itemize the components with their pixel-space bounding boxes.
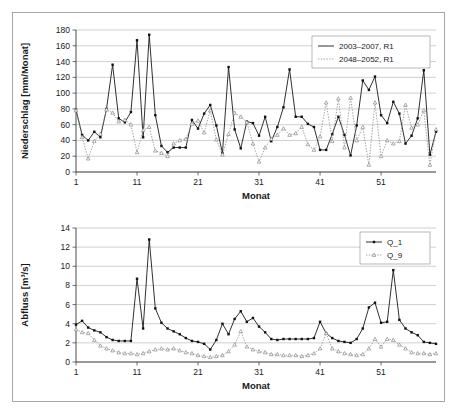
data-point	[130, 111, 132, 113]
data-point	[258, 325, 260, 327]
x-tick-label: 41	[315, 367, 325, 377]
data-point	[172, 347, 176, 350]
precipitation-chart: 02040608010012014016018011121314151Monat…	[12, 14, 446, 210]
data-point	[318, 347, 322, 350]
data-point	[343, 341, 345, 343]
legend-label: 2048–2052, R1	[339, 55, 394, 64]
data-point	[374, 301, 376, 303]
data-point	[349, 154, 351, 156]
runoff-chart-panel: 0246810121411121314151MonatAbfluss [m³/s…	[12, 210, 446, 402]
data-point	[385, 337, 389, 340]
y-tick-label: 14	[61, 223, 71, 233]
data-point	[428, 163, 432, 166]
data-point	[239, 329, 243, 332]
data-point	[325, 149, 327, 151]
data-point	[93, 139, 97, 142]
data-point	[190, 351, 194, 354]
data-point	[154, 307, 156, 309]
legend[interactable]: Q_1Q_9	[360, 232, 430, 264]
data-point	[87, 326, 89, 328]
x-axis-title: Monat	[242, 380, 271, 391]
data-point	[355, 353, 359, 356]
data-point	[74, 328, 78, 331]
legend[interactable]: 2003–2007, R12048–2052, R1	[312, 36, 430, 68]
data-point	[362, 327, 364, 329]
data-point	[349, 96, 353, 99]
data-point	[410, 351, 414, 354]
data-point	[118, 340, 120, 342]
data-point	[136, 278, 138, 280]
legend-label: 2003–2007, R1	[339, 42, 394, 51]
data-point	[386, 122, 388, 124]
data-point	[368, 306, 370, 308]
data-point	[300, 125, 304, 128]
data-point	[374, 75, 376, 77]
y-tick-label: 6	[65, 300, 70, 310]
data-point	[435, 343, 437, 345]
data-point	[380, 114, 382, 116]
data-point	[337, 350, 341, 353]
data-point	[301, 338, 303, 340]
data-point	[147, 350, 151, 353]
data-point	[282, 106, 284, 108]
data-point	[392, 269, 394, 271]
x-tick-label: 51	[376, 177, 386, 187]
data-point	[202, 354, 206, 357]
data-point	[233, 111, 237, 114]
x-tick-label: 11	[133, 367, 142, 377]
data-point	[123, 118, 127, 121]
data-point	[301, 116, 303, 118]
data-point	[307, 123, 309, 125]
data-point	[355, 338, 357, 340]
data-point	[240, 147, 242, 149]
data-point	[416, 117, 418, 119]
data-point	[288, 68, 290, 70]
data-point	[221, 353, 225, 356]
data-point	[307, 338, 309, 340]
data-point	[111, 64, 113, 66]
data-point	[203, 343, 205, 345]
data-point	[123, 351, 127, 354]
data-point	[135, 150, 139, 153]
data-point	[294, 353, 298, 356]
data-point	[160, 347, 164, 350]
y-tick-label: 0	[65, 167, 70, 177]
data-point	[142, 136, 144, 138]
data-point	[196, 353, 200, 356]
data-point	[361, 125, 365, 128]
data-point	[136, 39, 138, 41]
data-point	[416, 351, 420, 354]
data-point	[87, 139, 89, 141]
y-tick-label: 10	[61, 261, 71, 271]
data-point	[312, 351, 316, 354]
data-point	[410, 135, 412, 137]
data-point	[306, 353, 310, 356]
data-point	[398, 112, 400, 114]
data-point	[233, 128, 235, 130]
data-point	[282, 127, 286, 130]
data-point	[215, 354, 219, 357]
data-point	[288, 338, 290, 340]
data-point	[111, 111, 115, 114]
data-point	[258, 135, 260, 137]
data-point	[362, 79, 364, 81]
y-tick-label: 100	[56, 88, 70, 98]
data-point	[276, 339, 278, 341]
data-point	[429, 342, 431, 344]
data-point	[391, 142, 395, 145]
data-point	[227, 132, 231, 135]
data-point	[227, 333, 229, 335]
data-point	[203, 112, 205, 114]
runoff-chart: 0246810121411121314151MonatAbfluss [m³/s…	[12, 210, 446, 402]
data-point	[215, 124, 217, 126]
y-tick-label: 140	[56, 57, 70, 67]
data-point	[391, 338, 395, 341]
x-tick-label: 11	[133, 177, 142, 187]
x-tick-label: 31	[254, 177, 264, 187]
data-point	[86, 331, 90, 334]
legend-label: Q_1	[387, 238, 403, 247]
data-point	[337, 340, 339, 342]
data-point	[349, 352, 353, 355]
data-point	[111, 339, 113, 341]
data-point	[215, 339, 217, 341]
